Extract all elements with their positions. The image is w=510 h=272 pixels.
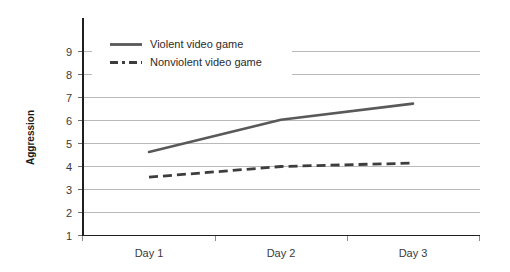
- chart-figure: 9 8 7 6 5 4 3 2 1 Aggression Day 1 Day 2…: [0, 0, 510, 272]
- x-tick-label-day2: Day 2: [267, 247, 296, 259]
- legend-label-violent: Violent video game: [150, 38, 243, 50]
- y-tick-label-2: 2: [66, 207, 72, 219]
- y-axis-title: Aggression: [25, 110, 36, 165]
- x-tick-label-day1: Day 1: [135, 247, 164, 259]
- y-tick-label-6: 6: [66, 115, 72, 127]
- y-tick-label-4: 4: [66, 161, 72, 173]
- chart-legend: Violent video game Nonviolent video game: [92, 28, 292, 78]
- y-tick-label-5: 5: [66, 138, 72, 150]
- y-tick-label-1: 1: [66, 230, 72, 242]
- y-tick-label-7: 7: [66, 92, 72, 104]
- line-chart: 9 8 7 6 5 4 3 2 1 Aggression Day 1 Day 2…: [0, 0, 510, 272]
- y-tick-label-8: 8: [66, 69, 72, 81]
- legend-background: [92, 28, 292, 78]
- x-tick-label-day3: Day 3: [399, 247, 428, 259]
- y-tick-labels: 9 8 7 6 5 4 3 2 1: [66, 46, 72, 242]
- y-tick-label-9: 9: [66, 46, 72, 58]
- legend-label-nonviolent: Nonviolent video game: [150, 56, 262, 68]
- y-tick-label-3: 3: [66, 184, 72, 196]
